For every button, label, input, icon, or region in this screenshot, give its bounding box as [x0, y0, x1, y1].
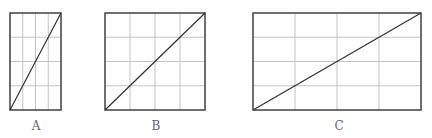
grid-figure-b	[105, 13, 205, 110]
diagram-canvas	[0, 0, 432, 138]
figure-a-label: A	[16, 119, 56, 133]
grid-figure-c	[253, 13, 421, 110]
grid-figure-a	[10, 13, 61, 110]
figure-b-label: B	[136, 119, 176, 133]
figure-c-label: C	[319, 119, 359, 133]
